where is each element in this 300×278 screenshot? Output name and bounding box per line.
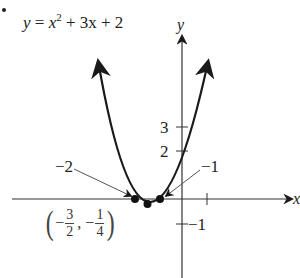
vertex-x-den: 2 bbox=[66, 225, 73, 239]
y-tick-label-neg1: −1 bbox=[188, 215, 206, 234]
close-paren: ) bbox=[107, 206, 115, 240]
vertex-y-den: 4 bbox=[96, 225, 103, 239]
vertex-separator: , bbox=[77, 214, 81, 232]
parabola-curve bbox=[98, 62, 208, 202]
vertex-y-num: 1 bbox=[96, 208, 103, 222]
y-tick-label-3: 3 bbox=[160, 118, 169, 137]
vertex-x-fraction: 3 2 bbox=[65, 208, 74, 239]
root-right-label: −1 bbox=[201, 157, 219, 176]
open-paren: ( bbox=[46, 206, 54, 240]
y-axis-label: y bbox=[175, 16, 185, 34]
vertex-x-num: 3 bbox=[66, 208, 73, 222]
root-left-label: −2 bbox=[55, 157, 73, 176]
vertex-x-sign: − bbox=[55, 214, 64, 232]
root-point-right bbox=[156, 195, 164, 203]
x-axis-label: x bbox=[292, 190, 300, 207]
y-tick-label-2: 2 bbox=[160, 142, 169, 161]
vertex-y-sign: − bbox=[85, 214, 94, 232]
vertex-label: ( − 3 2 , − 1 4 ) bbox=[44, 206, 117, 240]
vertex-point bbox=[144, 200, 152, 208]
pointer-root-left bbox=[74, 169, 131, 196]
root-point-left bbox=[131, 195, 139, 203]
parabola-figure: y = x2 + 3x + 2 y x 3 2 −1 bbox=[0, 0, 300, 278]
vertex-y-fraction: 1 4 bbox=[95, 208, 104, 239]
